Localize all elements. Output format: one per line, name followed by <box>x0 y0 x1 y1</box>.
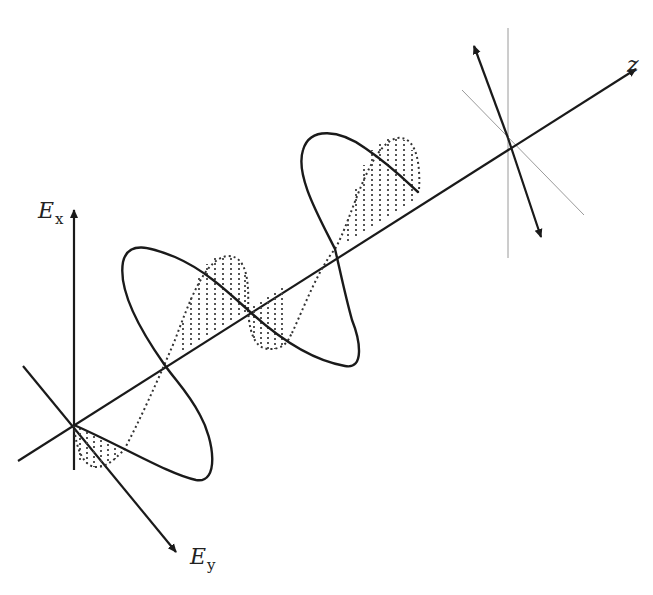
diagram-canvas: Ex Ey z <box>0 0 653 595</box>
ey-axis-label: Ey <box>190 546 216 568</box>
ex-wave-solid <box>74 133 418 480</box>
ey-wave-dotted <box>74 138 419 467</box>
ey-axis <box>23 366 176 552</box>
z-axis <box>18 69 636 461</box>
z-axis-label: z <box>627 54 639 76</box>
ey-label-sub: y <box>207 556 215 574</box>
ey-label-main: E <box>190 544 206 569</box>
wave-diagram <box>0 0 653 595</box>
ex-label-sub: x <box>55 210 63 228</box>
ex-label-main: E <box>38 198 54 223</box>
ex-axis-label: Ex <box>38 200 64 222</box>
z-label: z <box>627 52 639 77</box>
